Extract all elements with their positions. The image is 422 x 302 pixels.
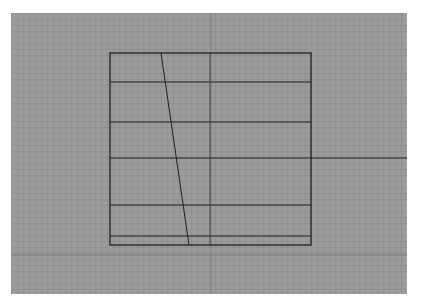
drawing-surface[interactable]	[11, 13, 407, 294]
drawing-canvas[interactable]	[11, 13, 407, 294]
